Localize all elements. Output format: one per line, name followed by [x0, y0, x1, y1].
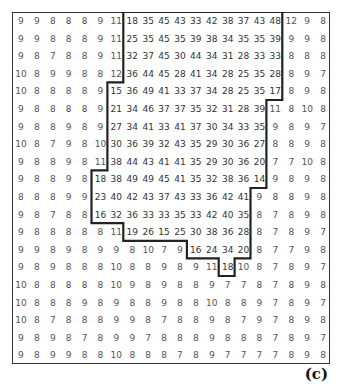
grid-cell: 34	[204, 66, 220, 84]
grid-cell: 35	[252, 83, 268, 101]
grid-cell: 8	[315, 207, 331, 225]
grid-cell: 8	[252, 277, 268, 295]
grid-cell: 9	[13, 347, 29, 365]
grid-cell: 8	[77, 312, 93, 330]
grid-cell: 39	[267, 31, 283, 49]
grid-cell: 9	[29, 242, 45, 260]
grid-cell: 8	[61, 101, 77, 119]
grid-cell: 7	[315, 224, 331, 242]
grid-cell: 9	[124, 330, 140, 348]
grid-cell: 9	[204, 312, 220, 330]
grid-cell: 7	[315, 330, 331, 348]
grid-cell: 8	[140, 277, 156, 295]
grid-cell: 8	[45, 154, 61, 172]
grid-cell: 11	[108, 224, 124, 242]
grid-cell: 9	[93, 83, 109, 101]
grid-cell: 11	[108, 31, 124, 49]
grid-cell: 45	[156, 171, 172, 189]
grid-cell: 32	[204, 171, 220, 189]
grid-cell: 8	[77, 83, 93, 101]
grid-cell: 44	[124, 154, 140, 172]
grid-cell: 39	[188, 31, 204, 49]
grid-cell: 38	[220, 171, 236, 189]
grid-cell: 7	[45, 136, 61, 154]
grid-cells: 9988891118354543334238374348129899888911…	[13, 13, 329, 363]
grid-cell: 8	[77, 242, 93, 260]
grid-cell: 11	[108, 48, 124, 66]
grid-cell: 8	[29, 101, 45, 119]
grid-cell: 7	[140, 330, 156, 348]
grid-cell: 9	[29, 13, 45, 31]
grid-cell: 9	[108, 295, 124, 313]
grid-cell: 9	[156, 295, 172, 313]
grid-cell: 35	[188, 171, 204, 189]
grid-cell: 8	[188, 312, 204, 330]
grid-cell: 8	[61, 83, 77, 101]
grid-cell: 9	[299, 295, 315, 313]
grid-cell: 7	[236, 312, 252, 330]
grid-cell: 11	[93, 154, 109, 172]
grid-cell: 8	[61, 330, 77, 348]
grid-cell: 7	[283, 242, 299, 260]
grid-cell: 8	[283, 330, 299, 348]
grid-cell: 9	[299, 277, 315, 295]
grid-cell: 34	[220, 31, 236, 49]
grid-cell: 34	[220, 119, 236, 137]
grid-cell: 9	[61, 347, 77, 365]
grid-cell: 8	[283, 207, 299, 225]
grid-cell: 8	[315, 154, 331, 172]
grid-cell: 7	[45, 207, 61, 225]
grid-cell: 8	[29, 207, 45, 225]
grid-cell: 41	[156, 154, 172, 172]
grid-cell: 8	[45, 224, 61, 242]
grid-cell: 8	[283, 312, 299, 330]
grid-cell: 38	[220, 13, 236, 31]
grid-cell: 8	[77, 347, 93, 365]
grid-cell: 7	[283, 154, 299, 172]
grid-cell: 9	[93, 119, 109, 137]
grid-cell: 25	[236, 83, 252, 101]
grid-cell: 8	[61, 207, 77, 225]
grid-cell: 8	[93, 330, 109, 348]
grid-cell: 8	[77, 13, 93, 31]
grid-cell: 11	[108, 13, 124, 31]
grid-cell: 9	[29, 31, 45, 49]
grid-cell: 43	[172, 136, 188, 154]
grid-cell: 36	[124, 66, 140, 84]
grid-cell: 8	[188, 277, 204, 295]
grid-cell: 7	[267, 295, 283, 313]
grid-cell: 7	[45, 48, 61, 66]
grid-cell: 8	[45, 277, 61, 295]
grid-cell: 11	[267, 101, 283, 119]
grid-cell: 8	[188, 295, 204, 313]
grid-cell: 7	[77, 330, 93, 348]
grid-cell: 8	[283, 295, 299, 313]
grid-cell: 28	[220, 66, 236, 84]
grid-cell: 9	[45, 66, 61, 84]
grid-cell: 8	[77, 136, 93, 154]
grid-cell: 9	[45, 259, 61, 277]
grid-cell: 41	[236, 189, 252, 207]
grid-cell: 33	[188, 13, 204, 31]
grid-cell: 7	[267, 259, 283, 277]
grid-cell: 8	[77, 207, 93, 225]
grid-cell: 8	[188, 347, 204, 365]
grid-cell: 9	[61, 119, 77, 137]
grid-cell: 10	[13, 295, 29, 313]
grid-cell: 16	[188, 242, 204, 260]
grid-cell: 18	[124, 13, 140, 31]
grid-cell: 7	[252, 347, 268, 365]
grid-cell: 44	[140, 66, 156, 84]
grid-cell: 8	[236, 295, 252, 313]
grid-cell: 7	[267, 242, 283, 260]
grid-cell: 33	[267, 48, 283, 66]
grid-cell: 8	[29, 347, 45, 365]
grid-cell: 10	[236, 259, 252, 277]
grid-cell: 8	[188, 330, 204, 348]
grid-cell: 9	[93, 31, 109, 49]
grid-cell: 9	[299, 312, 315, 330]
grid-cell: 49	[140, 83, 156, 101]
grid-cell: 8	[61, 312, 77, 330]
grid-cell: 7	[267, 277, 283, 295]
grid-cell: 8	[252, 242, 268, 260]
